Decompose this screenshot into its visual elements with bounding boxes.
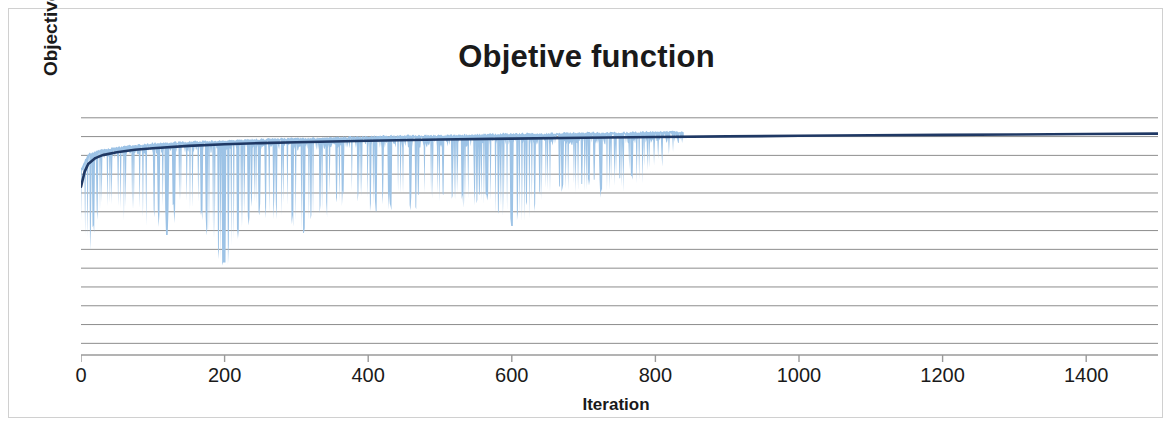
chart-frame: Objetive function Objective function (pr… — [8, 8, 1163, 418]
x-axis-tick-label: 0 — [75, 364, 86, 387]
y-axis-title: Objective function (profit) — [38, 0, 64, 103]
current-objective-series — [81, 131, 684, 266]
x-axis-tick-labels: 0200400600800100012001400 — [81, 364, 1158, 392]
plot-svg — [81, 99, 1158, 355]
x-axis-title: Iteration — [73, 395, 1159, 415]
x-axis-tick-label: 400 — [352, 364, 385, 387]
x-axis-tick-label: 200 — [208, 364, 241, 387]
x-axis-tick-label: 600 — [495, 364, 528, 387]
x-axis-tick-label: 1000 — [777, 364, 822, 387]
x-axis-tick-label: 800 — [639, 364, 672, 387]
x-axis-ticks — [81, 355, 1086, 362]
chart-screenshot: Objetive function Objective function (pr… — [0, 0, 1171, 444]
plot-area — [81, 99, 1158, 355]
x-axis-tick-label: 1400 — [1064, 364, 1109, 387]
x-axis-tick-label: 1200 — [920, 364, 965, 387]
chart-title: Objetive function — [9, 39, 1164, 75]
